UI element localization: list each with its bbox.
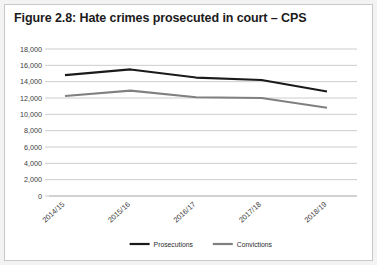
- series-lines-group: [65, 69, 327, 107]
- y-tick-marks-group: [45, 49, 49, 196]
- figure-title: Figure 2.8: Hate crimes prosecuted in co…: [14, 11, 364, 25]
- y-axis-tick-label: 8,000: [24, 126, 42, 135]
- x-axis-category-label: 2016/17: [171, 200, 197, 225]
- x-axis-category-label: 2014/15: [40, 200, 66, 225]
- chart-svg: 02,0004,0006,0008,00010,00012,00014,0001…: [5, 31, 372, 260]
- legend-label: Prosecutions: [154, 241, 194, 248]
- line-chart: 02,0004,0006,0008,00010,00012,00014,0001…: [5, 31, 372, 260]
- gridlines-group: [49, 49, 357, 196]
- legend-label: Convictions: [237, 241, 273, 248]
- legend-group: ProsecutionsConvictions: [130, 241, 273, 248]
- y-axis-tick-label: 16,000: [20, 61, 42, 70]
- y-axis-tick-label: 2,000: [24, 175, 42, 184]
- y-axis-tick-label: 4,000: [24, 159, 42, 168]
- y-axis-labels-group: 02,0004,0006,0008,00010,00012,00014,0001…: [20, 45, 42, 201]
- y-axis-tick-label: 14,000: [20, 77, 42, 86]
- y-axis-tick-label: 12,000: [20, 94, 42, 103]
- figure-card: Figure 2.8: Hate crimes prosecuted in co…: [4, 4, 373, 261]
- x-axis-category-label: 2018/19: [302, 200, 328, 225]
- y-axis-tick-label: 18,000: [20, 45, 42, 54]
- x-axis-category-label: 2015/16: [106, 200, 132, 225]
- x-axis-labels-group: 2014/152015/162016/172017/182018/19: [40, 200, 328, 225]
- series-line-convictions: [65, 91, 327, 108]
- y-axis-tick-label: 0: [38, 192, 42, 201]
- y-axis-tick-label: 6,000: [24, 143, 42, 152]
- x-axis-category-label: 2017/18: [237, 200, 263, 225]
- figure-container: Figure 2.8: Hate crimes prosecuted in co…: [0, 0, 377, 265]
- y-axis-tick-label: 10,000: [20, 110, 42, 119]
- series-line-prosecutions: [65, 69, 327, 91]
